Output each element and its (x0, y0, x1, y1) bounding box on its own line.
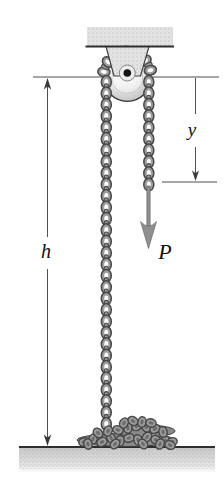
dimension-h-label: h (41, 240, 51, 262)
force-arrow (141, 186, 157, 249)
ground (19, 447, 215, 472)
pulley-chain-figure: h y P (0, 0, 224, 484)
force-label: P (157, 239, 171, 264)
chain-right-run (144, 76, 154, 191)
ceiling (87, 27, 173, 47)
dimension-y-label: y (186, 119, 197, 140)
chain-pile (77, 415, 178, 451)
diagram-canvas: h y P (0, 0, 224, 484)
chain-left-run (101, 76, 111, 431)
pulley-axle (119, 65, 135, 81)
dimension-h (44, 78, 51, 446)
